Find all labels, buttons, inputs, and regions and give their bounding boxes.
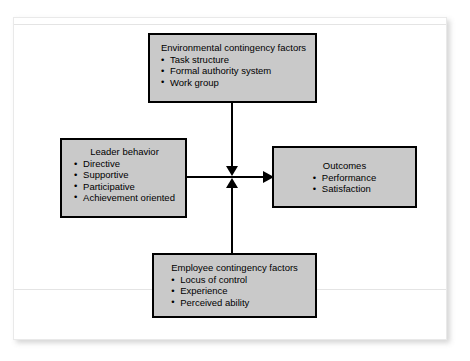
node-outcomes-title: Outcomes — [313, 160, 376, 171]
list-item: Work group — [161, 77, 306, 88]
list-item: Formal authority system — [161, 65, 306, 76]
node-employee-contingency-factors: Employee contingency factors Locus of co… — [152, 253, 317, 318]
list-item: Supportive — [74, 169, 175, 180]
node-employee-title: Employee contingency factors — [171, 262, 298, 273]
node-employee-list: Locus of control Experience Perceived ab… — [171, 274, 298, 308]
connector-employee-to-junction — [231, 186, 233, 253]
node-environmental-title: Environmental contingency factors — [161, 42, 306, 53]
node-outcomes-block: Outcomes Performance Satisfaction — [313, 160, 376, 195]
node-environmental-content: Environmental contingency factors Task s… — [150, 42, 315, 90]
list-item: Participative — [74, 181, 175, 192]
node-environmental-list: Task structure Formal authority system W… — [161, 54, 306, 88]
node-employee-content: Employee contingency factors Locus of co… — [154, 262, 315, 310]
node-leader-list: Directive Supportive Participative Achie… — [74, 158, 175, 203]
node-leader-behavior: Leader behavior Directive Supportive Par… — [60, 138, 187, 218]
node-outcomes-list: Performance Satisfaction — [313, 172, 376, 194]
list-item: Task structure — [161, 54, 306, 65]
list-item: Perceived ability — [171, 297, 298, 308]
node-leader-title: Leader behavior — [74, 146, 175, 157]
connector-environmental-to-junction — [231, 103, 233, 169]
list-item: Directive — [74, 158, 175, 169]
list-item: Experience — [171, 285, 298, 296]
node-environmental-block: Environmental contingency factors Task s… — [159, 42, 306, 88]
node-leader-content: Leader behavior Directive Supportive Par… — [62, 146, 185, 206]
node-employee-block: Employee contingency factors Locus of co… — [171, 262, 298, 308]
list-item: Achievement oriented — [74, 192, 175, 203]
list-item: Locus of control — [171, 274, 298, 285]
list-item: Performance — [313, 172, 376, 183]
page: Environmental contingency factors Task s… — [0, 0, 470, 361]
arrowhead-down-icon — [226, 166, 238, 176]
path-goal-theory-diagram: Environmental contingency factors Task s… — [0, 0, 470, 361]
node-environmental-contingency-factors: Environmental contingency factors Task s… — [148, 33, 317, 103]
node-leader-block: Leader behavior Directive Supportive Par… — [72, 146, 175, 203]
arrowhead-right-icon — [263, 171, 274, 183]
node-outcomes: Outcomes Performance Satisfaction — [272, 146, 417, 208]
arrowhead-up-icon — [226, 178, 238, 188]
node-outcomes-content: Outcomes Performance Satisfaction — [274, 160, 415, 197]
list-item: Satisfaction — [313, 183, 376, 194]
